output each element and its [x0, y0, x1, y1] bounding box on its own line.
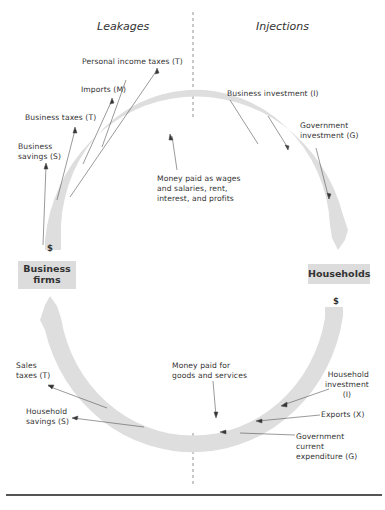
label-exports: Exports (X) — [321, 410, 364, 420]
label-government-current-expenditure: Government current expenditure (G) — [296, 432, 357, 462]
label-household-savings: Household savings (S) — [26, 407, 69, 427]
label-business-investment: Business investment (I) — [227, 89, 319, 99]
label-business-taxes: Business taxes (T) — [25, 113, 96, 123]
label-sales-taxes: Sales taxes (T) — [16, 361, 50, 381]
label-personal-income-taxes: Personal income taxes (T) — [82, 57, 183, 67]
households-box: Households — [308, 264, 370, 284]
bottom-rule — [6, 494, 382, 496]
leakages-header: Leakages — [97, 20, 149, 33]
injections-header: Injections — [256, 20, 309, 33]
business-firms-box: Business firms — [18, 261, 76, 289]
households-dollar-icon: $ — [333, 296, 339, 306]
label-imports: Imports (M) — [81, 85, 126, 95]
label-money-paid-goods: Money paid for goods and services — [172, 361, 247, 381]
label-money-paid-wages: Money paid as wages and salaries, rent, … — [157, 174, 241, 204]
label-household-investment: Household investment (I) — [325, 370, 369, 400]
label-government-investment: Government investment (G) — [300, 121, 359, 141]
business-dollar-icon: $ — [47, 243, 53, 253]
label-business-savings: Business savings (S) — [18, 142, 61, 162]
